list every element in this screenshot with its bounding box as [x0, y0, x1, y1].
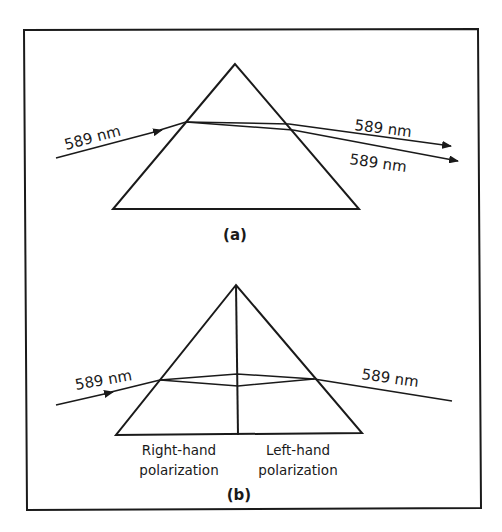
exit-label-a-lower: 589 nm [348, 150, 407, 176]
exit-label-a-upper: 589 nm [354, 116, 413, 141]
prism-polarization-diagram: 589 nm 589 nm 589 nm (a) 589 nm 589 nm R… [0, 0, 502, 532]
caption-a: (a) [223, 226, 247, 244]
incident-ray-b [56, 392, 113, 405]
right-hand-label-line1: Right-hand [142, 442, 216, 458]
incident-label-b: 589 nm [74, 366, 134, 394]
panel-b: 589 nm 589 nm Right-hand polarization Le… [56, 285, 452, 504]
prism-a [113, 64, 359, 209]
caption-b: (b) [227, 486, 251, 504]
left-hand-label-line1: Left-hand [266, 442, 330, 458]
panel-a: 589 nm 589 nm 589 nm (a) [56, 64, 458, 244]
right-hand-label-line2: polarization [139, 462, 218, 478]
figure-frame [24, 29, 481, 510]
left-hand-label-line2: polarization [258, 462, 337, 478]
prism-b [116, 285, 362, 435]
prism-b-divider [236, 285, 238, 435]
